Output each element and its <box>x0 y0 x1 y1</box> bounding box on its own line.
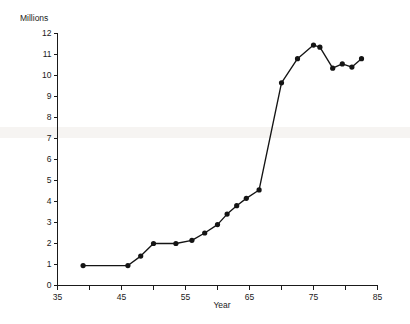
data-point-marker <box>202 230 207 235</box>
y-axis-tick-label: 2 <box>47 238 52 248</box>
data-point-marker <box>215 222 220 227</box>
data-point-marker <box>311 42 316 47</box>
y-axis-tick-label: 10 <box>42 70 52 80</box>
y-axis-tick-label: 0 <box>47 280 52 290</box>
data-point-marker <box>317 45 322 50</box>
y-axis-title: Millions <box>20 13 48 23</box>
y-axis-tick-label: 11 <box>43 49 52 59</box>
data-point-marker <box>151 241 156 246</box>
y-axis-tick-label: 1 <box>47 259 52 269</box>
data-point-marker <box>330 66 335 71</box>
data-series <box>81 42 365 268</box>
data-point-marker <box>340 61 345 66</box>
data-point-marker <box>279 80 284 85</box>
y-axis-tick-label: 5 <box>47 175 52 185</box>
data-point-marker <box>138 254 143 259</box>
y-axis-tick-label: 3 <box>47 217 52 227</box>
x-axis-tick-label: 55 <box>181 292 191 302</box>
y-axis-tick-label: 12 <box>42 28 52 38</box>
data-point-marker <box>81 263 86 268</box>
y-axis: 0123456789101112 <box>42 28 57 290</box>
line-chart: 0123456789101112 354555657585 Millions Y… <box>0 0 410 324</box>
data-point-marker <box>173 241 178 246</box>
x-axis-tick-label: 85 <box>373 292 383 302</box>
y-axis-tick-label: 4 <box>47 196 52 206</box>
data-point-marker <box>125 263 130 268</box>
data-point-marker <box>295 56 300 61</box>
x-axis-title: Year <box>213 300 230 310</box>
data-point-marker <box>225 212 230 217</box>
x-axis-tick-label: 45 <box>117 292 127 302</box>
data-point-marker <box>244 196 249 201</box>
x-axis-tick-label: 65 <box>245 292 255 302</box>
series-line <box>83 45 361 265</box>
y-axis-tick-label: 8 <box>47 112 52 122</box>
data-point-marker <box>189 238 194 243</box>
y-axis-tick-label: 9 <box>47 91 52 101</box>
x-axis-tick-label: 75 <box>309 292 319 302</box>
y-axis-tick-label: 6 <box>47 154 52 164</box>
x-axis-tick-label: 35 <box>53 292 63 302</box>
data-point-marker <box>234 203 239 208</box>
data-point-marker <box>359 56 364 61</box>
data-point-marker <box>257 187 262 192</box>
chart-container: 0123456789101112 354555657585 Millions Y… <box>0 0 410 324</box>
data-point-marker <box>349 65 354 70</box>
y-axis-tick-label: 7 <box>47 133 52 143</box>
